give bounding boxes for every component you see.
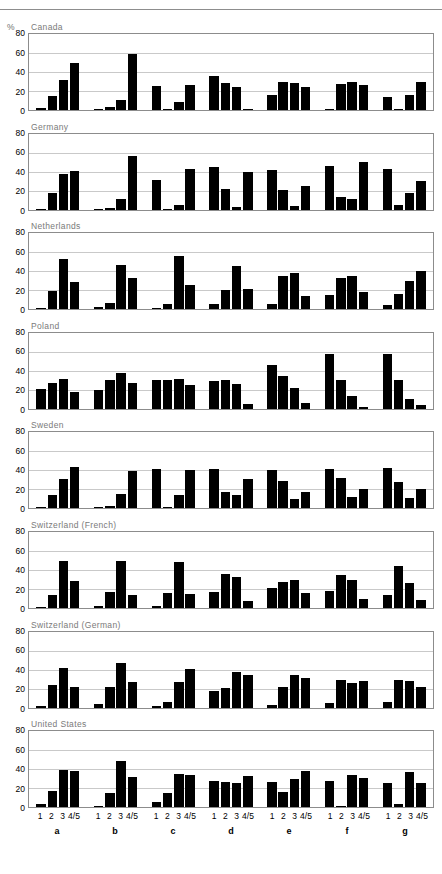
y-axis-tick-label: 40 — [16, 565, 25, 575]
bar — [185, 169, 194, 210]
bar — [359, 681, 368, 708]
bar — [209, 592, 218, 608]
bar — [128, 278, 137, 309]
bar — [152, 86, 161, 110]
bar — [128, 595, 137, 608]
bar — [336, 197, 345, 209]
panel-title: Germany — [31, 122, 68, 132]
x-axis-tick-label: 3 — [292, 811, 297, 821]
x-axis-tick-label: 4/5 — [300, 811, 312, 821]
bar — [48, 96, 57, 110]
unit-label: % — [7, 22, 15, 32]
plot-frame — [28, 631, 434, 709]
bar — [290, 388, 299, 409]
bar — [325, 703, 334, 708]
y-axis: 020406080 — [0, 232, 27, 310]
plot-area-wrapper: 020406080 — [0, 33, 442, 111]
x-axis-tick-label: 1 — [38, 811, 43, 821]
bar — [128, 383, 137, 409]
bar — [347, 82, 356, 111]
bar — [116, 265, 125, 310]
bar — [36, 209, 45, 210]
bar — [152, 802, 161, 807]
bar — [267, 304, 276, 309]
bar — [267, 782, 276, 808]
bar — [243, 289, 252, 309]
x-axis-tick-label: 1 — [270, 811, 275, 821]
bar — [347, 775, 356, 807]
y-axis-tick-label: 20 — [16, 186, 25, 196]
bar — [105, 687, 114, 708]
bar — [301, 296, 310, 309]
bar — [383, 595, 392, 608]
bar — [394, 380, 403, 409]
y-axis-tick-label: 0 — [20, 604, 25, 614]
y-axis-tick-label: 60 — [16, 247, 25, 257]
country-panel: %Canada020406080 — [0, 22, 442, 114]
y-axis: 020406080 — [0, 431, 27, 509]
bar — [94, 390, 103, 409]
bar — [278, 276, 287, 309]
y-axis-tick-label: 80 — [16, 128, 25, 138]
bar — [383, 97, 392, 110]
bar — [36, 507, 45, 508]
y-axis-tick-label: 40 — [16, 167, 25, 177]
bar — [36, 607, 45, 608]
bar — [163, 380, 172, 409]
bar — [209, 167, 218, 210]
x-axis-tick-label: 4/5 — [358, 811, 370, 821]
bar — [105, 303, 114, 310]
y-axis-tick-label: 60 — [16, 446, 25, 456]
bar — [105, 208, 114, 210]
bar — [209, 691, 218, 708]
bar — [394, 205, 403, 210]
bar — [416, 82, 425, 111]
plot-area-wrapper: 020406080 — [0, 332, 442, 410]
bar — [383, 702, 392, 708]
x-axis-tick-label: 4/5 — [184, 811, 196, 821]
bar — [301, 771, 310, 807]
bar — [163, 109, 172, 110]
bar — [105, 107, 114, 110]
bar — [209, 381, 218, 409]
bar — [290, 83, 299, 110]
y-axis-tick-label: 40 — [16, 67, 25, 77]
plot-area-wrapper: 020406080 — [0, 232, 442, 310]
bar — [185, 285, 194, 309]
country-panel: Germany020406080 — [0, 122, 442, 214]
bar — [59, 379, 68, 408]
y-axis: 020406080 — [0, 631, 27, 709]
bar — [163, 702, 172, 708]
bar — [174, 495, 183, 508]
y-axis-tick-label: 80 — [16, 28, 25, 38]
bar — [105, 506, 114, 509]
bar — [59, 479, 68, 508]
bar — [152, 380, 161, 409]
bar — [232, 577, 241, 608]
plot-frame — [28, 730, 434, 808]
bar — [347, 683, 356, 708]
bar — [128, 777, 137, 807]
y-axis-tick-label: 20 — [16, 585, 25, 595]
bar — [336, 575, 345, 608]
x-axis-tick-label: 2 — [397, 811, 402, 821]
y-axis-tick-label: 40 — [16, 266, 25, 276]
bar — [221, 574, 230, 608]
bar — [48, 193, 57, 209]
y-axis-tick-label: 60 — [16, 645, 25, 655]
bar — [267, 588, 276, 608]
bar — [174, 682, 183, 708]
bar — [36, 308, 45, 309]
y-axis-tick-label: 0 — [20, 803, 25, 813]
x-axis-tick-label: 4/5 — [242, 811, 254, 821]
bar — [94, 507, 103, 508]
bar — [152, 308, 161, 309]
x-axis-tick-label: 3 — [118, 811, 123, 821]
bar — [278, 376, 287, 409]
y-axis-tick-label: 40 — [16, 366, 25, 376]
bar — [59, 259, 68, 309]
x-axis-group-label: g — [402, 826, 408, 836]
bar — [405, 281, 414, 310]
y-axis-tick-label: 20 — [16, 385, 25, 395]
bar — [221, 189, 230, 210]
